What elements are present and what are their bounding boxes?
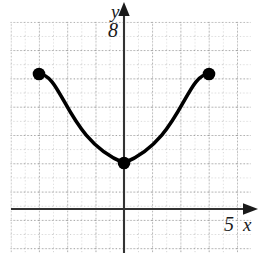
x-axis-label: x <box>243 215 251 234</box>
major-gridlines <box>11 22 251 253</box>
graph-figure: y x 8 5 <box>0 0 262 253</box>
vertex-dot <box>118 157 131 170</box>
y-axis-arrowhead <box>118 2 129 16</box>
x-axis-tick-label: 5 <box>224 214 234 234</box>
y-axis-tick-label: 8 <box>108 20 118 40</box>
endpoint-right-dot <box>203 68 216 81</box>
endpoint-left-dot <box>33 68 46 81</box>
coordinate-plane <box>0 0 262 253</box>
grid-layer <box>11 22 251 253</box>
